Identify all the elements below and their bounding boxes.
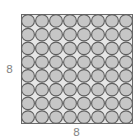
circle — [64, 15, 77, 28]
circle — [106, 56, 119, 69]
circle — [22, 83, 35, 96]
circle — [50, 28, 63, 41]
circle — [120, 70, 133, 83]
circle — [50, 83, 63, 96]
rows-label: 8 — [6, 64, 13, 75]
circle — [92, 15, 105, 28]
circle — [120, 111, 133, 124]
circle — [120, 83, 133, 96]
columns-label: 8 — [73, 127, 80, 138]
circle — [120, 15, 133, 28]
circle — [22, 28, 35, 41]
circle — [64, 42, 77, 55]
circle — [78, 42, 91, 55]
circle — [92, 97, 105, 110]
circle — [22, 56, 35, 69]
circle — [106, 42, 119, 55]
circle — [106, 70, 119, 83]
circle — [64, 83, 77, 96]
circle — [92, 70, 105, 83]
circle — [106, 28, 119, 41]
circle — [36, 15, 49, 28]
circle — [78, 97, 91, 110]
circle — [78, 70, 91, 83]
circle — [36, 56, 49, 69]
circle-grid — [21, 14, 133, 124]
circle — [78, 56, 91, 69]
circle — [106, 97, 119, 110]
circle — [64, 56, 77, 69]
circle — [22, 111, 35, 124]
circle — [78, 111, 91, 124]
circle — [50, 70, 63, 83]
circle — [120, 56, 133, 69]
circle — [106, 15, 119, 28]
circle — [92, 111, 105, 124]
circle — [50, 56, 63, 69]
circle — [36, 97, 49, 110]
circle — [106, 111, 119, 124]
circle — [50, 15, 63, 28]
circle — [36, 70, 49, 83]
circle — [78, 28, 91, 41]
circle — [64, 97, 77, 110]
circle — [78, 15, 91, 28]
circle — [78, 83, 91, 96]
circle — [36, 42, 49, 55]
circle — [22, 42, 35, 55]
circle — [50, 111, 63, 124]
circle — [64, 28, 77, 41]
circle — [120, 97, 133, 110]
circle — [92, 28, 105, 41]
circle — [92, 83, 105, 96]
circle — [50, 97, 63, 110]
circle — [64, 70, 77, 83]
circle — [120, 42, 133, 55]
circle — [106, 83, 119, 96]
circle — [22, 97, 35, 110]
circle — [50, 42, 63, 55]
circle — [36, 111, 49, 124]
circle — [92, 42, 105, 55]
circle — [22, 70, 35, 83]
circle — [64, 111, 77, 124]
circle — [92, 56, 105, 69]
circle — [36, 83, 49, 96]
circle — [36, 28, 49, 41]
circle — [22, 15, 35, 28]
circle — [120, 28, 133, 41]
